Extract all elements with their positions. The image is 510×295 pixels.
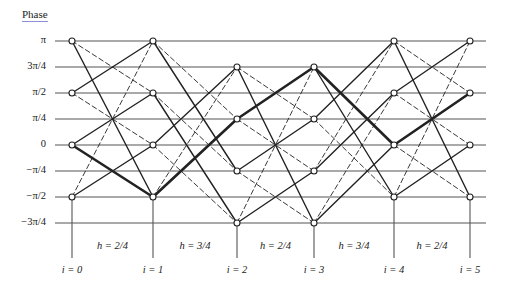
state-node [467, 194, 473, 200]
dashed-transition-edge [314, 93, 394, 223]
state-node [311, 64, 317, 70]
state-node [234, 220, 240, 226]
phase-tick-label: −π/4 [2, 164, 46, 176]
phase-trellis-diagram: Phase π3π/4π/2π/40−π/4−π/2−3π/4i = 0i = … [0, 0, 510, 295]
state-node [69, 90, 75, 96]
modulation-index-label: h = 2/4 [97, 240, 128, 252]
modulation-index-label: h = 2/4 [260, 240, 291, 252]
stage-label: i = 3 [304, 264, 325, 276]
phase-tick-label: 3π/4 [2, 60, 46, 72]
state-node [467, 38, 473, 44]
phase-tick-label: π/4 [2, 112, 46, 124]
stage-label: i = 5 [460, 264, 481, 276]
state-node [69, 38, 75, 44]
phase-tick-label: 0 [2, 138, 46, 150]
stage-label: i = 0 [62, 264, 83, 276]
state-node [150, 142, 156, 148]
state-node [391, 142, 397, 148]
state-node [311, 116, 317, 122]
dashed-transition-edge [153, 41, 237, 119]
state-node [150, 38, 156, 44]
state-node [467, 142, 473, 148]
state-node [467, 90, 473, 96]
phase-tick-label: π/2 [2, 86, 46, 98]
state-node [391, 90, 397, 96]
modulation-index-label: h = 3/4 [338, 240, 369, 252]
state-node [150, 90, 156, 96]
state-node [69, 142, 75, 148]
solid-transition-edge [314, 145, 394, 223]
stage-label: i = 1 [143, 264, 164, 276]
state-node [234, 64, 240, 70]
phase-tick-label: −3π/4 [2, 216, 46, 228]
stage-label: i = 4 [384, 264, 405, 276]
state-node [311, 220, 317, 226]
state-node [234, 116, 240, 122]
modulation-index-label: h = 2/4 [416, 240, 447, 252]
state-node [150, 194, 156, 200]
state-node [391, 38, 397, 44]
modulation-index-label: h = 3/4 [179, 240, 210, 252]
state-node [391, 194, 397, 200]
stage-label: i = 2 [227, 264, 248, 276]
state-node [69, 194, 75, 200]
state-node [311, 168, 317, 174]
phase-tick-label: π [2, 34, 46, 46]
state-node [234, 168, 240, 174]
phase-tick-label: −π/2 [2, 190, 46, 202]
solid-transition-edge [153, 67, 237, 145]
highlighted-path-edge [153, 119, 237, 197]
